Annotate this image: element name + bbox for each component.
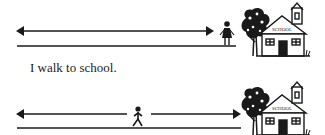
arrow-right-icon (206, 26, 214, 36)
scene-walking (16, 82, 310, 135)
child-walking-icon (133, 106, 142, 126)
arrow-right-icon (233, 109, 241, 119)
scene-at-school (16, 3, 310, 56)
girl-standing-icon (220, 21, 234, 45)
caption-text: I walk to school. (30, 60, 117, 76)
arrow-left-icon (16, 26, 24, 36)
arrow-left-icon (16, 109, 24, 119)
